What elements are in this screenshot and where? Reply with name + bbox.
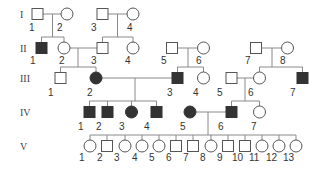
male-square-icon: [55, 73, 66, 84]
individual-number: 4: [144, 121, 150, 132]
female-circle-icon: [136, 140, 148, 152]
female-circle-icon: [205, 140, 217, 152]
individual-number: 10: [232, 152, 244, 163]
individual-number: 4: [127, 22, 133, 33]
affected-male-square-icon: [84, 107, 95, 118]
female-circle-icon: [254, 72, 266, 84]
individual-number: 7: [290, 87, 296, 98]
female-circle-icon: [254, 106, 266, 118]
male-square-icon: [171, 141, 182, 152]
individual-number: 3: [119, 121, 125, 132]
individual-number: 7: [183, 152, 189, 163]
individual-number: 1: [48, 87, 54, 98]
female-circle-icon: [58, 42, 70, 54]
individual-V-13: 13: [283, 140, 302, 163]
individual-I-1: 1: [29, 9, 43, 34]
female-circle-icon: [153, 140, 165, 152]
affected-male-square-icon: [226, 107, 237, 118]
individual-number: 4: [193, 87, 199, 98]
female-circle-icon: [198, 72, 210, 84]
individual-V-3: 3: [114, 140, 131, 163]
male-square-icon: [167, 43, 178, 54]
individual-III-6: 6: [248, 72, 266, 98]
individual-III-7: 7: [290, 73, 308, 99]
individual-V-10: 10: [232, 141, 251, 164]
affected-male-square-icon: [151, 107, 162, 118]
individual-V-6: 6: [166, 141, 182, 164]
female-circle-icon: [273, 140, 285, 152]
individuals: 1234123456781234567123456712345678910111…: [29, 8, 308, 163]
individual-number: 2: [87, 87, 93, 98]
individual-number: 1: [79, 152, 85, 163]
individual-number: 7: [251, 121, 257, 132]
individual-V-5: 5: [149, 140, 165, 163]
individual-II-7: 7: [245, 43, 262, 67]
affected-male-square-icon: [36, 43, 47, 54]
generation-label: I: [20, 9, 23, 20]
female-circle-icon: [119, 140, 131, 152]
individual-IV-4: 4: [144, 107, 162, 133]
male-square-icon: [97, 9, 108, 20]
pedigree-chart: IIIIIIIVV 123412345678123456712345671234…: [0, 0, 322, 171]
male-square-icon: [32, 9, 43, 20]
individual-number: 1: [29, 22, 35, 33]
female-circle-icon: [282, 42, 294, 54]
individual-IV-6: 6: [218, 107, 237, 133]
male-square-icon: [223, 141, 234, 152]
female-circle-icon: [198, 42, 210, 54]
individual-number: 2: [96, 121, 102, 132]
individual-V-1: 1: [79, 140, 96, 163]
male-square-icon: [97, 43, 108, 54]
male-square-icon: [102, 141, 113, 152]
individual-I-3: 3: [91, 9, 108, 34]
individual-number: 6: [196, 55, 202, 66]
affected-male-square-icon: [102, 107, 113, 118]
individual-number: 6: [248, 87, 254, 98]
individual-V-2: 2: [97, 141, 113, 164]
affected-male-square-icon: [297, 73, 308, 84]
generation-label: II: [20, 43, 27, 54]
individual-III-3: 3: [167, 73, 183, 99]
individual-II-8: 8: [280, 42, 294, 66]
individual-III-5: 5: [217, 73, 237, 99]
generation-label: V: [20, 141, 28, 152]
individual-number: 6: [166, 152, 172, 163]
individual-I-4: 4: [127, 8, 139, 33]
female-circle-icon: [127, 8, 139, 20]
individual-number: 1: [30, 55, 36, 66]
female-circle-icon: [61, 8, 73, 20]
individual-II-5: 5: [161, 43, 178, 67]
individual-I-2: 2: [57, 8, 73, 33]
individual-number: 3: [114, 152, 120, 163]
individual-number: 5: [180, 121, 186, 132]
individual-V-7: 7: [183, 141, 199, 164]
individual-V-4: 4: [132, 140, 148, 163]
individual-II-4: 4: [125, 42, 139, 66]
individual-number: 13: [283, 152, 295, 163]
individual-number: 2: [97, 152, 103, 163]
individual-II-2: 2: [58, 42, 70, 66]
individual-IV-5: 5: [180, 106, 196, 132]
individual-number: 5: [149, 152, 155, 163]
individual-II-1: 1: [30, 43, 47, 67]
individual-V-8: 8: [200, 140, 217, 163]
individual-number: 6: [218, 121, 224, 132]
individual-II-6: 6: [196, 42, 210, 66]
individual-number: 8: [280, 55, 286, 66]
individual-number: 3: [91, 22, 97, 33]
individual-IV-7: 7: [251, 106, 266, 132]
individual-IV-2: 2: [96, 107, 113, 133]
male-square-icon: [226, 73, 237, 84]
male-square-icon: [240, 141, 251, 152]
affected-female-circle-icon: [90, 72, 102, 84]
individual-number: 5: [161, 55, 167, 66]
individual-IV-3: 3: [119, 106, 138, 132]
individual-number: 12: [266, 152, 278, 163]
individual-number: 9: [217, 152, 223, 163]
individual-number: 11: [249, 152, 260, 163]
individual-number: 7: [245, 55, 251, 66]
individual-IV-1: 1: [78, 107, 95, 133]
affected-female-circle-icon: [184, 106, 196, 118]
individual-number: 8: [200, 152, 206, 163]
individual-number: 2: [59, 55, 65, 66]
